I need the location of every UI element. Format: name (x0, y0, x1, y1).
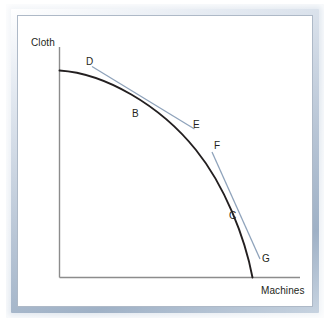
y-axis-label: Cloth (31, 37, 55, 48)
tangent-line-DE (92, 67, 195, 130)
ppf-curve (60, 71, 253, 278)
point-label-b: B (132, 108, 139, 119)
point-label-d: D (86, 56, 93, 67)
point-label-c: C (229, 210, 236, 221)
ppf-chart (0, 0, 330, 325)
tangent-line-FG (212, 152, 260, 259)
screenshot-root: Cloth Machines D B E F C G (0, 0, 330, 325)
point-label-g: G (262, 253, 270, 264)
point-label-e: E (193, 119, 200, 130)
x-axis-label: Machines (261, 285, 305, 296)
point-label-f: F (214, 140, 220, 151)
